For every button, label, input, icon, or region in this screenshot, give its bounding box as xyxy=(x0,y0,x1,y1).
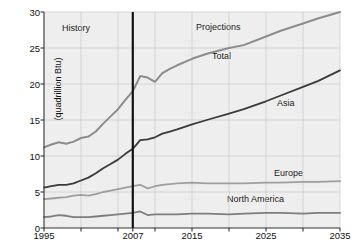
axis-ticks xyxy=(41,12,341,232)
chart-svg xyxy=(0,0,356,250)
chart-container: (quadrillion Btu) 30 25 20 15 10 5 0 199… xyxy=(0,0,356,250)
